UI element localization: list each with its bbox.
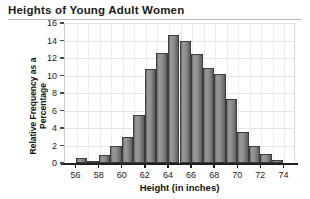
y-tick-mark <box>60 145 64 146</box>
histogram-bar <box>133 115 145 163</box>
x-tick-label: 66 <box>186 170 196 180</box>
x-tick-mark <box>121 164 122 168</box>
x-tick-label: 64 <box>163 170 173 180</box>
bar-series <box>64 23 295 163</box>
histogram-bar <box>191 54 203 163</box>
histogram-bar <box>99 155 111 163</box>
y-tick-label: 4 <box>52 123 57 133</box>
y-tick-label: 6 <box>52 106 57 116</box>
x-tick-label: 60 <box>117 170 127 180</box>
x-tick-mark <box>237 164 238 168</box>
y-tick-label: 10 <box>47 71 57 81</box>
y-tick-mark <box>60 57 64 58</box>
histogram-bar <box>122 137 134 163</box>
x-tick-label: 58 <box>94 170 104 180</box>
x-tick-mark <box>167 164 168 168</box>
y-tick-label: 16 <box>47 18 57 28</box>
histogram-bar <box>214 74 226 163</box>
x-tick-mark <box>260 164 261 168</box>
histogram-bar <box>110 146 122 164</box>
histogram-bar <box>156 53 168 163</box>
x-tick-label: 68 <box>209 170 219 180</box>
x-tick-mark <box>190 164 191 168</box>
histogram-bar <box>180 41 192 163</box>
histogram-bar <box>203 68 215 163</box>
histogram-bar <box>249 146 261 164</box>
histogram-bar <box>237 132 249 164</box>
y-tick-mark <box>60 92 64 93</box>
x-tick-label: 72 <box>255 170 265 180</box>
histogram-bar <box>168 35 180 163</box>
y-axis-title: Relative Frequency as a Percentage <box>28 46 48 166</box>
x-tick-label: 56 <box>71 170 81 180</box>
y-tick-label: 2 <box>52 141 57 151</box>
x-tick-label: 70 <box>232 170 242 180</box>
y-tick-mark <box>60 75 64 76</box>
y-tick-label: 14 <box>47 36 57 46</box>
x-tick-mark <box>213 164 214 168</box>
x-tick-label: 74 <box>278 170 288 180</box>
y-tick-label: 8 <box>52 88 57 98</box>
x-tick-mark <box>98 164 99 168</box>
x-axis-line <box>61 163 298 165</box>
y-tick-mark <box>60 110 64 111</box>
x-axis-title: Height (in inches) <box>64 182 295 193</box>
y-tick-label: 0 <box>52 158 57 168</box>
y-tick-mark <box>60 40 64 41</box>
histogram-bar <box>145 69 157 163</box>
histogram-figure: Heights of Young Adult Women 02468101214… <box>0 0 310 199</box>
x-tick-label: 62 <box>140 170 150 180</box>
y-tick-mark <box>60 127 64 128</box>
histogram-bar <box>226 99 238 163</box>
y-tick-mark <box>60 22 64 23</box>
x-tick-mark <box>75 164 76 168</box>
histogram-bar <box>260 154 272 163</box>
x-tick-mark <box>144 164 145 168</box>
y-tick-label: 12 <box>47 53 57 63</box>
x-tick-mark <box>283 164 284 168</box>
y-tick-mark <box>60 162 64 163</box>
